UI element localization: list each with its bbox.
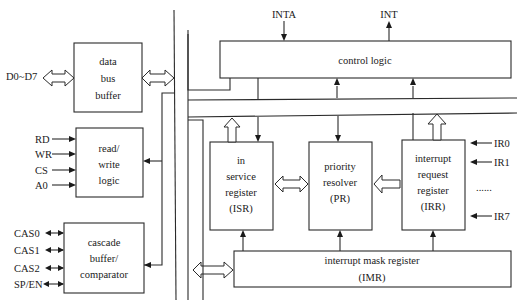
signal-a0: A0 bbox=[35, 180, 48, 191]
block-label: (IRR) bbox=[421, 201, 446, 213]
signal-cas0: CAS0 bbox=[14, 228, 40, 239]
block-label: logic bbox=[99, 175, 120, 186]
ir-signals: IR0 IR1 ...... IR7 bbox=[470, 138, 510, 222]
block-diagram: data bus buffer read/ write logic cascad… bbox=[0, 0, 517, 302]
ellipsis: ...... bbox=[476, 182, 492, 193]
block-label: buffer bbox=[95, 90, 121, 101]
signal-int: INT bbox=[380, 9, 398, 20]
block-label: priority bbox=[324, 161, 356, 172]
signal-cs: CS bbox=[35, 165, 48, 176]
data-bus-buffer-block: data bus buffer bbox=[74, 43, 142, 112]
double-arrow-icon bbox=[43, 70, 74, 86]
signal-rd: RD bbox=[35, 134, 50, 145]
left-arrow-icon bbox=[374, 175, 400, 193]
signal-cas1: CAS1 bbox=[14, 245, 40, 256]
signal-cas2: CAS2 bbox=[14, 263, 40, 274]
control-logic-block: control logic bbox=[220, 41, 511, 78]
up-arrow-icon bbox=[224, 118, 240, 142]
block-label: write bbox=[98, 159, 120, 170]
block-label: (IMR) bbox=[359, 272, 386, 284]
signal-sp-en: SP/EN bbox=[14, 279, 43, 290]
block-label: register bbox=[225, 187, 257, 198]
block-label: interrupt mask register bbox=[324, 255, 420, 266]
imr-block: interrupt mask register (IMR) bbox=[234, 251, 511, 287]
cascade-buffer-block: cascade buffer/ comparator bbox=[64, 223, 144, 293]
read-write-logic-block: read/ write logic bbox=[76, 128, 143, 197]
block-label: bus bbox=[101, 73, 116, 84]
block-label: resolver bbox=[323, 177, 357, 188]
double-arrow-icon bbox=[275, 176, 308, 192]
signal-inta: INTA bbox=[272, 9, 297, 20]
signal-ir1: IR1 bbox=[494, 157, 510, 168]
block-label: (ISR) bbox=[229, 203, 253, 215]
block-label: buffer/ bbox=[90, 253, 118, 264]
block-label: control logic bbox=[338, 55, 392, 66]
double-arrow-icon bbox=[142, 70, 174, 86]
signal-d0-d7: D0~D7 bbox=[6, 71, 37, 82]
block-label: (PR) bbox=[330, 193, 350, 205]
signal-ir0: IR0 bbox=[494, 138, 510, 149]
double-arrow-icon bbox=[193, 262, 233, 278]
internal-bus-line bbox=[174, 10, 176, 300]
block-label: request bbox=[418, 169, 448, 180]
rw-signals: RD WR CS A0 bbox=[35, 134, 76, 191]
block-label: in bbox=[237, 155, 246, 166]
block-label: read/ bbox=[99, 143, 120, 154]
priority-resolver-block: priority resolver (PR) bbox=[309, 142, 372, 230]
block-label: service bbox=[226, 171, 256, 182]
block-label: register bbox=[417, 185, 449, 196]
block-label: comparator bbox=[80, 269, 128, 280]
control-line bbox=[144, 93, 174, 265]
up-arrow-icon bbox=[428, 114, 446, 140]
signal-wr: WR bbox=[35, 149, 52, 160]
block-label: interrupt bbox=[415, 153, 451, 164]
irr-block: interrupt request register (IRR) bbox=[402, 140, 465, 230]
cascade-signals: CAS0 CAS1 CAS2 SP/EN bbox=[14, 228, 64, 290]
signal-ir7: IR7 bbox=[494, 211, 510, 222]
isr-block: in service register (ISR) bbox=[210, 142, 273, 230]
block-label: data bbox=[99, 56, 117, 67]
block-label: cascade bbox=[88, 237, 121, 248]
